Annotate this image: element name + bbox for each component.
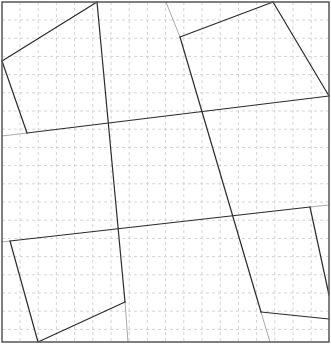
dashed-grid bbox=[2, 2, 329, 342]
right-vertical-extension-bottom bbox=[261, 312, 270, 342]
tiling-diagram bbox=[0, 0, 331, 349]
bl-quad-bottom-edge bbox=[38, 302, 125, 342]
lower-cross-line-extension-right bbox=[310, 205, 329, 207]
br-quad-bottom-edge bbox=[261, 312, 329, 319]
tl-quad-top-edge bbox=[2, 2, 97, 61]
diagram-svg bbox=[0, 0, 331, 349]
lower-cross-line bbox=[10, 207, 310, 241]
upper-cross-line bbox=[27, 96, 329, 133]
tr-quad-right-edge bbox=[273, 2, 329, 96]
right-vertical-line bbox=[180, 37, 261, 312]
left-vertical-extension-bottom bbox=[125, 302, 128, 342]
tl-quad-left-edge bbox=[2, 61, 27, 133]
lower-cross-line-extension-left bbox=[2, 241, 10, 242]
tr-quad-top-edge bbox=[180, 2, 273, 37]
upper-cross-line-extension bbox=[2, 133, 27, 136]
